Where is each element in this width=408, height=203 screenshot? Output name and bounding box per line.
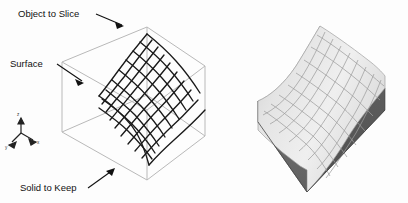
technical-illustration: Object to Slice Surface Solid to Keep (0, 0, 408, 203)
label-object-to-slice: Object to Slice (18, 8, 79, 19)
label-surface: Surface (10, 58, 43, 69)
figure-canvas: Object to Slice Surface Solid to Keep (0, 0, 408, 203)
label-solid-to-keep: Solid to Keep (20, 182, 77, 193)
